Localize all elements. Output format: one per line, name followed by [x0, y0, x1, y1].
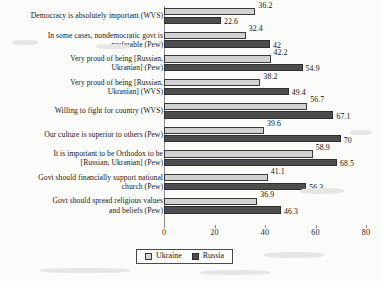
legend-label-russia: Russia	[203, 252, 224, 260]
bar-value-label: 70	[344, 136, 352, 145]
bar-ukraine	[164, 174, 268, 181]
category-label: It is important to be Orthodox to be [Ru…	[1, 149, 163, 167]
category-label: Willing to fight for country (WVS)	[1, 106, 163, 115]
legend-item-russia: Russia	[192, 252, 224, 260]
bar-chart: 36.222.632.44242.254.938.249.456.767.139…	[0, 0, 381, 281]
x-axis-tick-label: 60	[311, 228, 319, 237]
legend-item-ukraine: Ukraine	[145, 252, 182, 260]
bar-value-label: 39.6	[267, 119, 281, 128]
bar-ukraine	[164, 150, 313, 157]
scan-artifact	[40, 268, 130, 273]
x-axis-tick-row: 020406080	[0, 225, 381, 237]
bar-value-label: 56.3	[309, 183, 323, 192]
bar-value-label: 42.2	[274, 48, 288, 57]
bar-russia	[164, 135, 341, 142]
legend-swatch-ukraine-icon	[145, 253, 152, 260]
bar-value-label: 36.9	[260, 190, 274, 199]
bar-value-label: 38.2	[263, 72, 277, 81]
category-label: In some cases, nondemocratic govt is pre…	[1, 31, 163, 49]
x-axis-tick-label: 0	[162, 228, 166, 237]
bar-value-label: 67.1	[336, 112, 350, 121]
legend-label-ukraine: Ukraine	[156, 252, 182, 260]
bar-russia	[164, 17, 221, 24]
category-label: Democracy is absolutely important (WVS)	[1, 11, 163, 20]
bar-value-label: 46.3	[284, 207, 298, 216]
bar-ukraine	[164, 198, 257, 205]
bar-value-label: 22.6	[224, 17, 238, 26]
x-axis-tick-label: 40	[261, 228, 269, 237]
scan-artifact	[264, 252, 324, 258]
bar-value-label: 56.7	[310, 95, 324, 104]
bar-ukraine	[164, 103, 307, 110]
legend-swatch-russia-icon	[192, 253, 199, 260]
bar-value-label: 32.4	[249, 24, 263, 33]
category-label: Our culture is superior to others (Pew)	[1, 130, 163, 139]
bar-russia	[164, 183, 306, 190]
chart-legend: Ukraine Russia	[136, 249, 233, 264]
plot-area: 36.222.632.44242.254.938.249.456.767.139…	[164, 6, 366, 224]
bar-ukraine	[164, 79, 260, 86]
bar-value-label: 54.9	[306, 64, 320, 73]
bar-russia	[164, 88, 289, 95]
bar-ukraine	[164, 32, 246, 39]
bar-value-label: 36.2	[258, 1, 272, 10]
x-axis-tick-label: 80	[362, 228, 370, 237]
bar-value-label: 58.9	[316, 143, 330, 152]
bar-ukraine	[164, 8, 255, 15]
bar-value-label: 41.1	[271, 167, 285, 176]
scan-artifact	[200, 270, 270, 275]
bar-russia	[164, 111, 333, 118]
category-label: Govt should financially support national…	[1, 173, 163, 191]
x-axis-tick-label: 20	[210, 228, 218, 237]
bar-russia	[164, 159, 337, 166]
bar-russia	[164, 40, 270, 47]
bar-russia	[164, 206, 281, 213]
category-label: Very proud of being [Russian, Ukranian] …	[1, 54, 163, 72]
bar-ukraine	[164, 55, 271, 62]
bar-russia	[164, 64, 303, 71]
category-label: Very proud of being [Russian, Ukranian] …	[1, 78, 163, 96]
bar-value-label: 49.4	[292, 88, 306, 97]
bar-value-label: 68.5	[340, 159, 354, 168]
bar-ukraine	[164, 127, 264, 134]
category-label: Govt should spread religious values and …	[1, 196, 163, 214]
